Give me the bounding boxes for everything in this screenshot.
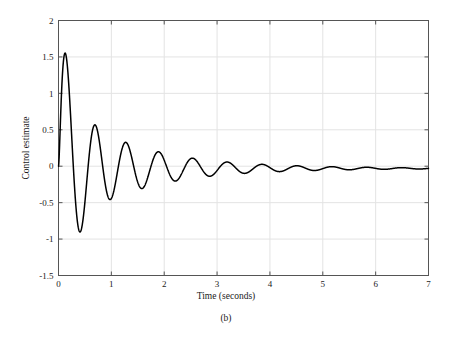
x-axis-label: Time (seconds) — [0, 291, 452, 301]
svg-text:2: 2 — [162, 279, 167, 289]
svg-text:0.5: 0.5 — [42, 125, 54, 135]
figure-caption: (b) — [0, 313, 452, 323]
svg-text:5: 5 — [321, 279, 326, 289]
plot-frame — [59, 21, 429, 276]
svg-text:4: 4 — [268, 279, 273, 289]
svg-text:6: 6 — [373, 279, 378, 289]
svg-text:3: 3 — [215, 279, 220, 289]
chart-plot: 01234567-1.5-1-0.500.511.52 — [0, 0, 452, 340]
svg-text:-0.5: -0.5 — [39, 198, 54, 208]
svg-text:7: 7 — [426, 279, 431, 289]
svg-text:1: 1 — [109, 279, 114, 289]
gridlines-group — [59, 21, 429, 276]
svg-text:-1.5: -1.5 — [39, 271, 54, 281]
svg-text:1.5: 1.5 — [42, 52, 54, 62]
svg-text:0: 0 — [56, 279, 61, 289]
y-axis-label: Control estimate — [21, 116, 31, 179]
svg-text:1: 1 — [49, 89, 54, 99]
svg-text:-1: -1 — [46, 234, 54, 244]
svg-text:0: 0 — [49, 161, 54, 171]
figure-panel: 01234567-1.5-1-0.500.511.52 Control esti… — [0, 0, 452, 340]
data-series-line — [59, 53, 429, 232]
tick-marks-group — [59, 21, 429, 276]
svg-text:2: 2 — [49, 16, 54, 26]
